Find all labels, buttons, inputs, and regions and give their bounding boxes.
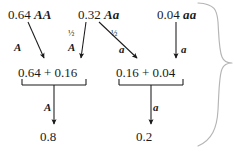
arrow-Aa-to-a: [99, 22, 137, 58]
diagram-connectors: [0, 0, 234, 152]
arrow-Aa-to-A: [81, 22, 86, 58]
allele-frequency-diagram: 0.64 AA 0.32 Aa 0.04 aa A ½ A ½ a a 0.64…: [0, 0, 234, 152]
right-curly-brace: [198, 3, 232, 146]
bracket-A: [22, 79, 86, 85]
arrow-AA-to-A: [28, 22, 44, 58]
bracket-a: [119, 79, 183, 85]
